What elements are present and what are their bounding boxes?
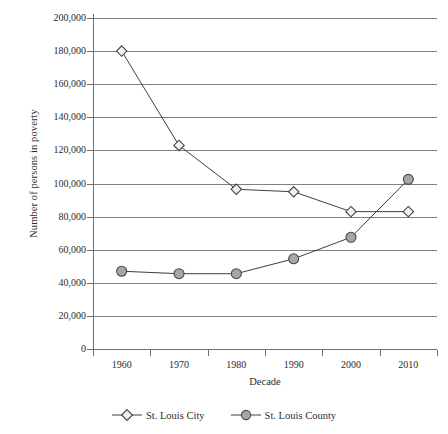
x-axis-tickmark: [265, 350, 266, 356]
y-axis-tickmark: [87, 150, 94, 151]
diamond-marker-icon: [112, 408, 142, 422]
x-axis-tickmark: [93, 350, 94, 356]
x-axis-tickmark: [322, 350, 323, 356]
y-axis-tickmark: [87, 283, 94, 284]
data-point-circle: [289, 254, 299, 264]
y-axis-tickmark: [87, 250, 94, 251]
data-point-diamond: [403, 206, 413, 216]
series-county: [117, 174, 414, 278]
y-axis-tickmark: [87, 217, 94, 218]
series-line: [122, 179, 409, 273]
data-point-circle: [174, 269, 184, 279]
chart-legend: St. Louis City St. Louis County: [0, 404, 448, 426]
legend-entry-city[interactable]: St. Louis City: [112, 408, 205, 422]
legend-label-county: St. Louis County: [265, 410, 336, 421]
y-axis-tickmark: [87, 184, 94, 185]
x-axis-tickmark: [380, 350, 381, 356]
data-point-diamond: [288, 187, 298, 197]
y-axis-tickmark: [87, 117, 94, 118]
legend-label-city: St. Louis City: [146, 410, 205, 421]
y-axis-tickmark: [87, 18, 94, 19]
data-point-diamond: [174, 140, 184, 150]
data-series-canvas: [0, 0, 448, 434]
data-point-circle: [403, 174, 413, 184]
data-point-diamond: [231, 184, 241, 194]
data-point-diamond: [116, 46, 126, 56]
data-point-diamond: [346, 206, 356, 216]
x-axis-tickmark: [208, 350, 209, 356]
series-city: [116, 46, 413, 217]
x-axis-tickmark: [437, 350, 438, 356]
poverty-line-chart: Number of persons in poverty 020,00040,0…: [0, 0, 448, 434]
legend-entry-county[interactable]: St. Louis County: [231, 408, 336, 422]
y-axis-tickmark: [87, 51, 94, 52]
y-axis-tickmark: [87, 316, 94, 317]
x-axis-tickmark: [150, 350, 151, 356]
data-point-circle: [346, 232, 356, 242]
data-point-circle: [231, 269, 241, 279]
data-point-circle: [117, 266, 127, 276]
circle-marker-icon: [231, 408, 261, 422]
y-axis-tickmark: [87, 84, 94, 85]
series-line: [122, 51, 409, 212]
